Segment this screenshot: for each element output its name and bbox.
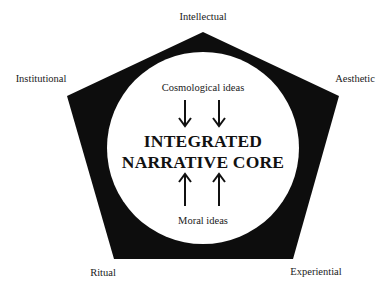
label-aesthetic: Aesthetic (335, 73, 375, 84)
core-title-line1: INTEGRATED (122, 131, 284, 152)
label-institutional: Institutional (16, 73, 67, 84)
label-ritual: Ritual (90, 267, 116, 278)
label-experiential: Experiential (290, 266, 341, 277)
core-title: INTEGRATED NARRATIVE CORE (122, 131, 284, 173)
label-moral-ideas: Moral ideas (178, 215, 228, 226)
label-cosmological-ideas: Cosmological ideas (162, 82, 245, 93)
label-intellectual: Intellectual (179, 11, 226, 22)
core-title-line2: NARRATIVE CORE (122, 152, 284, 173)
